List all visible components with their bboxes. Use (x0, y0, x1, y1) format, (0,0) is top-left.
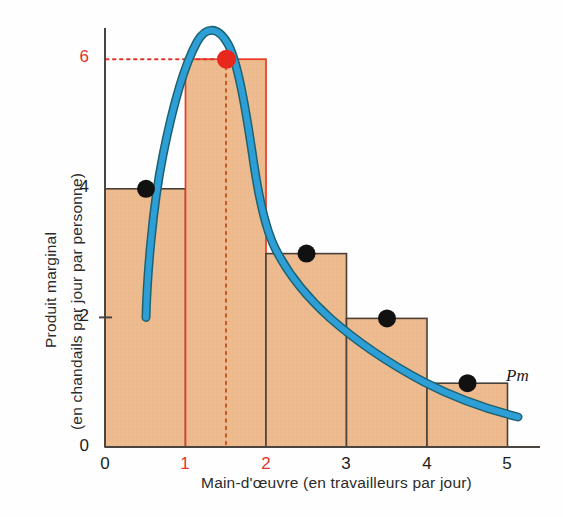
y-tick-label-0: 0 (63, 436, 89, 456)
marker-black-0 (137, 180, 155, 198)
x-tick-label-0: 0 (92, 454, 118, 474)
x-tick-label-5: 5 (494, 454, 520, 474)
marker-red-1 (217, 50, 236, 69)
marker-black-3 (378, 309, 396, 327)
marker-black-2 (298, 245, 316, 263)
x-axis-title: Main-d'œuvre (en travailleurs par jour) (0, 474, 563, 492)
x-axis-title-text: Main-d'œuvre (en travailleurs par jour) (91, 474, 472, 491)
x-tick-label-1: 1 (172, 454, 198, 474)
x-tick-label-3: 3 (333, 454, 359, 474)
y-tick-label-2: 2 (63, 306, 89, 326)
y-tick-label-6: 6 (63, 47, 89, 67)
bar-2 (266, 254, 347, 447)
pm-curve-label: Pm (506, 366, 529, 386)
marker-black-4 (459, 374, 477, 392)
y-tick-label-4: 4 (63, 177, 89, 197)
x-tick-label-4: 4 (414, 454, 440, 474)
x-tick-label-2: 2 (253, 454, 279, 474)
chart-figure: Produit marginal (en chandails par jour … (0, 0, 563, 517)
